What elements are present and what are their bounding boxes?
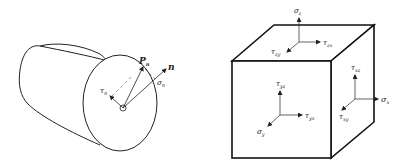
sigma-x-label: σx (381, 95, 389, 105)
cube-front-face (232, 61, 331, 158)
normal-label: n (168, 62, 175, 72)
normal-stress-label: σn (157, 79, 165, 88)
traction-label: Pn (138, 56, 150, 67)
cylinder-figure: Pn n σn τn (19, 44, 174, 151)
sigma-z-label: σz (294, 7, 302, 16)
cylinder-end-face (83, 55, 157, 151)
stress-diagram: Pn n σn τn σz τzx τzy τxz σx τxy (0, 0, 401, 166)
stress-cube: σz τzx τzy τxz σx τxy τyz τyx σy (232, 7, 389, 158)
